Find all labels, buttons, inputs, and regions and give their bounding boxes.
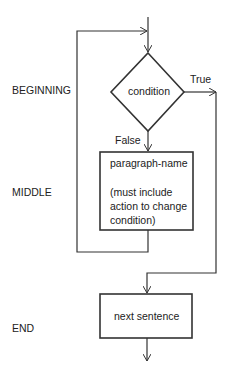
process-note-line-3: condition): [110, 214, 156, 228]
process-title: paragraph-name: [110, 157, 188, 171]
section-label-end: END: [12, 322, 34, 334]
process-note-line-1: (must include: [110, 186, 172, 200]
exit-label: next sentence: [114, 310, 179, 322]
flowchart-canvas: BEGINNING MIDDLE END condition True Fals…: [0, 0, 230, 377]
section-label-middle: MIDDLE: [12, 186, 52, 198]
section-label-beginning: BEGINNING: [12, 84, 71, 96]
process-note-line-2: action to change: [110, 200, 187, 214]
false-label: False: [115, 134, 141, 146]
decision-label: condition: [128, 85, 170, 97]
true-label: True: [190, 73, 211, 85]
